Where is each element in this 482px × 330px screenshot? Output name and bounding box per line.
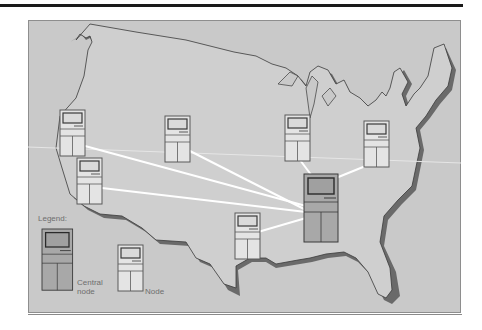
node-east bbox=[364, 121, 389, 167]
node-mountain bbox=[165, 116, 190, 162]
node-midwest bbox=[285, 115, 310, 161]
legend-title: Legend: bbox=[38, 214, 67, 223]
legend-central-label: Central node bbox=[77, 278, 103, 296]
legend-central-label-line2: node bbox=[77, 287, 103, 296]
central-node bbox=[304, 174, 338, 242]
legend-central-icon bbox=[42, 229, 73, 290]
legend-node-label: Node bbox=[145, 287, 164, 296]
node-texas bbox=[235, 213, 260, 259]
node-california-south bbox=[77, 158, 102, 204]
us-network-map bbox=[0, 0, 482, 330]
legend-node-icon bbox=[118, 245, 143, 291]
bottom-rule bbox=[28, 314, 462, 315]
legend-central-label-line1: Central bbox=[77, 278, 103, 287]
node-california-north bbox=[60, 110, 85, 156]
